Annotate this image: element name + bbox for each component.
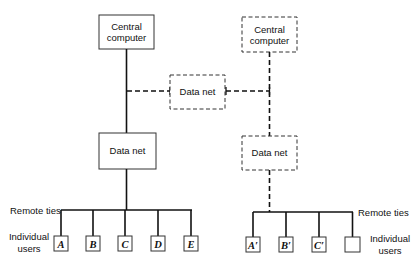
shared-data-net-label: Data net <box>180 86 216 97</box>
left-data-net-label: Data net <box>110 145 146 156</box>
right-individual-users-line1: Individual <box>370 233 410 244</box>
user-empty <box>345 237 360 252</box>
svg-text:A′: A′ <box>247 240 258 251</box>
user-b: B <box>86 236 100 251</box>
user-d: D <box>151 236 165 251</box>
left-central-computer-line2: computer <box>107 32 147 43</box>
right-individual-users-line2: users <box>378 245 401 256</box>
svg-text:C: C <box>121 239 129 250</box>
left-data-net: Data net <box>99 133 156 169</box>
svg-text:E: E <box>186 239 194 250</box>
user-c: C <box>118 236 132 251</box>
left-individual-users-line2: users <box>17 243 40 254</box>
svg-text:A: A <box>56 239 64 250</box>
right-system: Central computer Data net Remote ties A′… <box>242 17 410 256</box>
left-individual-users-line1: Individual <box>9 231 49 242</box>
left-remote-ties-label: Remote ties <box>10 205 61 216</box>
left-central-computer: Central computer <box>99 15 154 49</box>
left-central-computer-line1: Central <box>111 21 142 32</box>
user-e: E <box>184 236 198 251</box>
svg-text:D: D <box>153 239 162 250</box>
user-a: A <box>54 236 68 251</box>
right-data-net-label: Data net <box>252 147 288 158</box>
svg-text:B: B <box>88 239 96 250</box>
network-diagram: Central computer Data net Remote ties In… <box>0 0 413 262</box>
left-system: Central computer Data net Remote ties In… <box>9 15 198 254</box>
right-data-net: Data net <box>242 136 297 170</box>
shared-data-net: Data net <box>127 75 270 109</box>
right-remote-ties-label: Remote ties <box>358 207 409 218</box>
right-central-computer-line1: Central <box>254 24 285 35</box>
svg-text:B′: B′ <box>280 240 291 251</box>
svg-text:C′: C′ <box>314 240 324 251</box>
user-c-prime: C′ <box>312 237 326 252</box>
user-a-prime: A′ <box>246 237 260 252</box>
user-b-prime: B′ <box>279 237 293 252</box>
right-central-computer: Central computer <box>242 17 297 52</box>
right-central-computer-line2: computer <box>250 35 290 46</box>
